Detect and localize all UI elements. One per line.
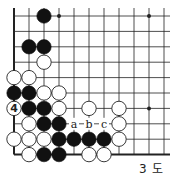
white-stone (52, 86, 66, 100)
white-stone (22, 70, 36, 84)
white-stone (82, 147, 96, 161)
white-stone (37, 55, 51, 69)
white-stone (7, 70, 21, 84)
star-point (57, 14, 61, 18)
point-labels: abc (69, 118, 109, 131)
black-stone (37, 40, 51, 54)
white-stone (52, 101, 66, 115)
point-label-a: a (71, 118, 78, 131)
black-stone (37, 101, 51, 115)
white-stone (22, 132, 36, 146)
move-number: 4 (10, 102, 18, 115)
black-stone (82, 132, 96, 146)
black-stone (22, 86, 36, 100)
white-stone (97, 147, 111, 161)
black-stone (52, 117, 66, 131)
black-stone (52, 147, 66, 161)
white-stone (112, 117, 126, 131)
black-stone (67, 132, 81, 146)
black-stone (22, 40, 36, 54)
white-stone (22, 147, 36, 161)
black-stone (37, 117, 51, 131)
black-stone (52, 132, 66, 146)
point-label-b: b (85, 118, 92, 131)
white-stone (112, 132, 126, 146)
black-stone (97, 132, 111, 146)
white-stone (37, 132, 51, 146)
star-point (147, 106, 151, 110)
point-label-c: c (101, 118, 107, 131)
black-stone (22, 101, 36, 115)
white-stone (22, 117, 36, 131)
white-stone (82, 101, 96, 115)
go-board: 4 abc (0, 0, 175, 179)
diagram-caption: 3 도 (139, 159, 164, 176)
star-point (147, 14, 151, 18)
black-stone (7, 86, 21, 100)
white-stone (112, 101, 126, 115)
white-stone (7, 132, 21, 146)
black-stone (37, 9, 51, 23)
black-stone (37, 147, 51, 161)
white-stone (37, 86, 51, 100)
